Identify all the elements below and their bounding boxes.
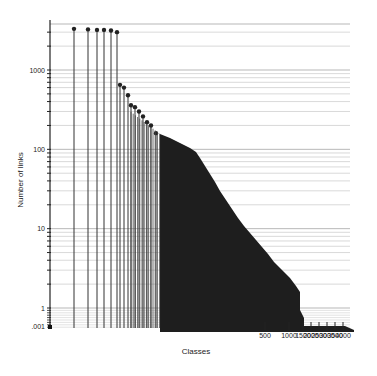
bars [72,27,354,332]
chart: 1000100101.00150010001500200025003000350… [0,0,377,376]
y-axis-title: Number of links [16,152,25,208]
y-tick-label: 10 [37,225,45,232]
y-tick-label: 1000 [29,67,45,74]
y-tick-label: .001 [31,323,45,330]
x-axis-title: Classes [182,347,210,356]
x-tick-label: 500 [259,332,271,339]
y-tick-label: 1 [41,305,45,312]
x-tick-label: 4000 [335,332,351,339]
y-tick-label: 100 [33,146,45,153]
